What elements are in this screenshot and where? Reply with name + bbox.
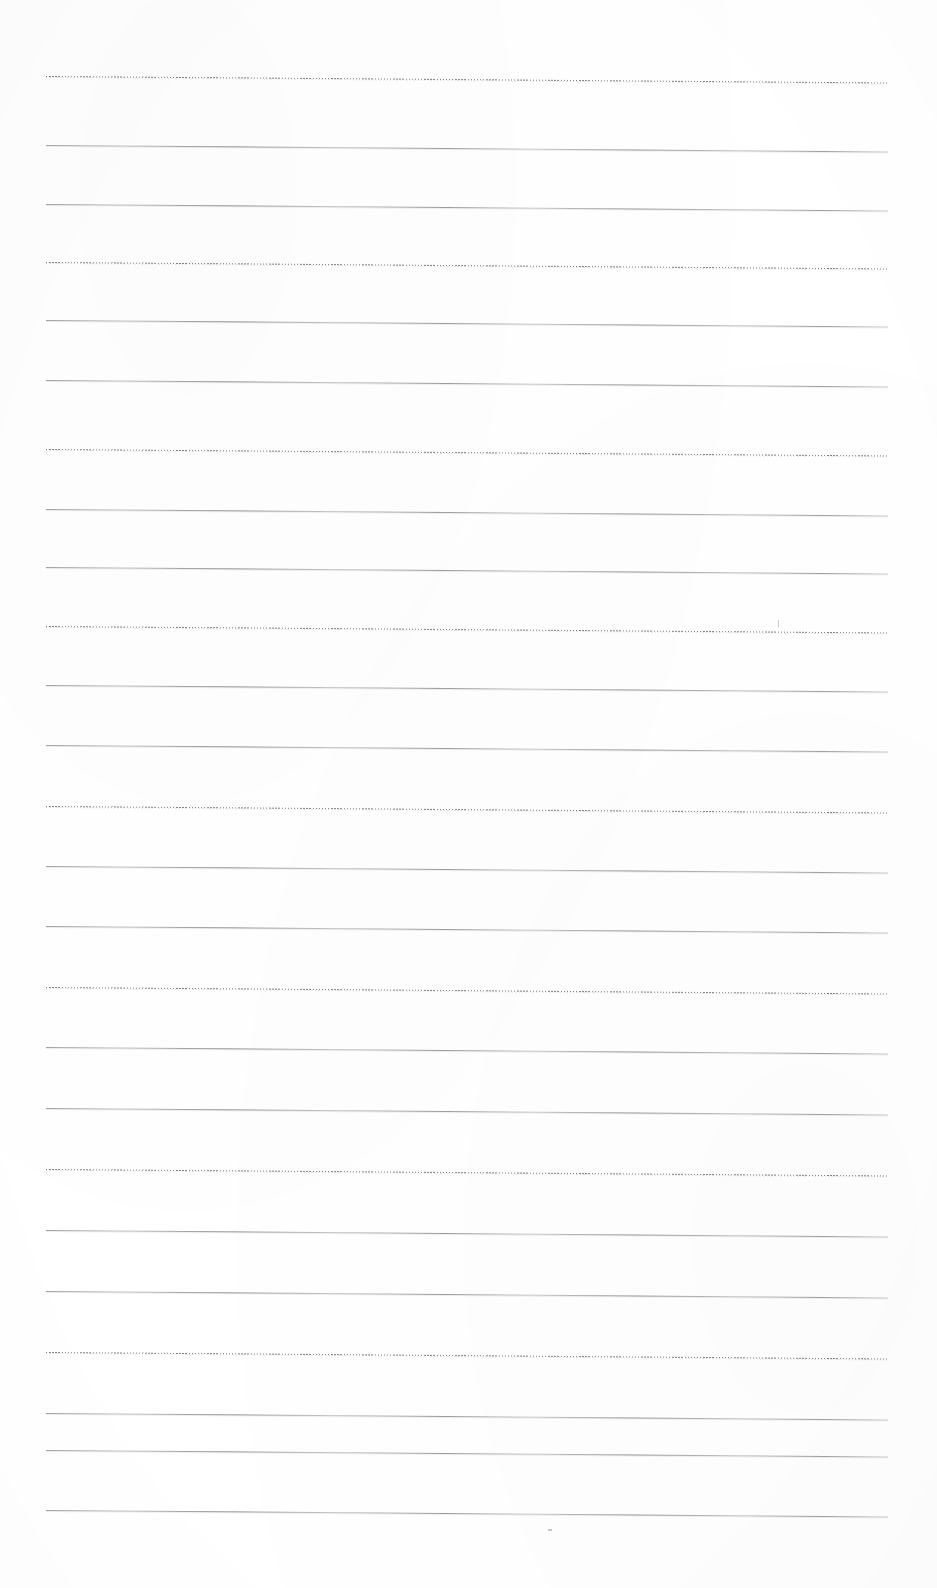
rule-stroke bbox=[46, 567, 888, 574]
ruled-line-4 bbox=[46, 261, 888, 270]
rule-stroke bbox=[46, 1169, 888, 1176]
rule-stroke bbox=[46, 204, 888, 211]
ruled-line-20 bbox=[46, 1229, 888, 1238]
rule-stroke bbox=[46, 380, 888, 387]
rule-stroke bbox=[46, 1510, 888, 1517]
rule-stroke bbox=[46, 1047, 888, 1054]
rule-stroke bbox=[46, 685, 888, 692]
ruled-line-22 bbox=[46, 1351, 888, 1360]
ruled-line-7 bbox=[46, 448, 888, 457]
rule-stroke bbox=[46, 626, 888, 633]
ruled-line-3 bbox=[46, 203, 888, 212]
ruled-line-17 bbox=[46, 1046, 888, 1055]
ruled-line-6 bbox=[46, 379, 888, 388]
ruled-line-15 bbox=[46, 925, 888, 934]
ruled-line-24 bbox=[46, 1449, 888, 1458]
speck-upper-right bbox=[778, 620, 779, 627]
speck-lower-center bbox=[548, 1529, 552, 1531]
ruled-line-23 bbox=[46, 1412, 888, 1421]
ruled-line-25 bbox=[46, 1509, 888, 1518]
rule-stroke bbox=[46, 1352, 888, 1359]
ruled-line-9 bbox=[46, 566, 888, 575]
ruled-line-2 bbox=[46, 144, 888, 153]
ruled-line-12 bbox=[46, 744, 888, 753]
rule-stroke bbox=[46, 866, 888, 873]
rule-stroke bbox=[46, 1291, 888, 1298]
rule-stroke bbox=[46, 262, 888, 269]
ruled-line-14 bbox=[46, 865, 888, 874]
ruled-line-13 bbox=[46, 805, 888, 814]
rule-stroke bbox=[46, 76, 888, 83]
rule-stroke bbox=[46, 145, 888, 152]
ruled-line-16 bbox=[46, 986, 888, 995]
rule-stroke bbox=[46, 745, 888, 752]
scan-grain-overlay bbox=[0, 0, 937, 1588]
ruled-line-21 bbox=[46, 1290, 888, 1299]
rule-stroke bbox=[46, 509, 888, 516]
rule-stroke bbox=[46, 1450, 888, 1457]
ruled-line-19 bbox=[46, 1168, 888, 1177]
rule-stroke bbox=[46, 1108, 888, 1115]
ruled-line-5 bbox=[46, 319, 888, 328]
rule-stroke bbox=[46, 926, 888, 933]
rule-stroke bbox=[46, 320, 888, 327]
rule-stroke bbox=[46, 1413, 888, 1420]
ruled-line-8 bbox=[46, 508, 888, 517]
scanned-page bbox=[0, 0, 937, 1588]
rule-stroke bbox=[46, 987, 888, 994]
ruled-line-11 bbox=[46, 684, 888, 693]
rule-stroke bbox=[46, 1230, 888, 1237]
ruled-line-1 bbox=[46, 75, 888, 84]
ruled-line-10 bbox=[46, 625, 888, 634]
ruled-line-18 bbox=[46, 1107, 888, 1116]
rule-stroke bbox=[46, 806, 888, 813]
rule-stroke bbox=[46, 449, 888, 456]
